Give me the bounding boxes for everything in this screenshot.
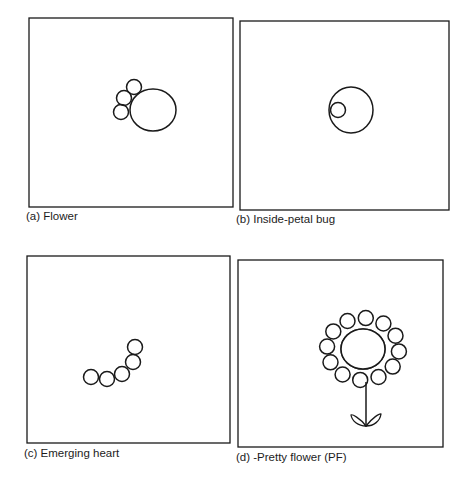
petal-d: [323, 355, 338, 370]
petal-d: [335, 367, 350, 382]
petal-c: [128, 340, 143, 355]
caption-emerging-heart: (c) Emerging heart: [24, 446, 119, 460]
petal-d: [388, 328, 403, 343]
petal-d: [385, 359, 400, 374]
petal-d: [376, 316, 391, 331]
caption-flower: (a) Flower: [26, 209, 78, 223]
petal-c: [84, 370, 99, 385]
petal-c: [100, 372, 115, 387]
flower-center-a: [130, 89, 176, 131]
leaf-left: [351, 415, 366, 426]
petal-d: [391, 344, 406, 359]
petal-d: [326, 324, 341, 339]
panel-frame-b: [240, 21, 449, 210]
petal-d: [371, 370, 386, 385]
flower-center-d-top: [341, 329, 385, 369]
caption-pretty-flower: (d) -Pretty flower (PF): [236, 450, 347, 464]
leaf-right: [366, 414, 381, 426]
figure: (a) Flower (b) Inside-petal bug (c) Emer…: [0, 0, 469, 482]
panel-frame-d: [238, 260, 443, 447]
petal-c: [115, 367, 130, 382]
petal-d: [340, 314, 355, 329]
petal-a: [114, 105, 129, 120]
petal-d: [358, 311, 373, 326]
petal-c: [126, 355, 141, 370]
bug-circle: [331, 103, 346, 118]
panel-frame-a: [29, 18, 233, 207]
caption-inside-petal-bug: (b) Inside-petal bug: [236, 212, 335, 226]
petal-a: [117, 91, 132, 106]
figure-drawing: [0, 0, 469, 482]
petal-d: [320, 339, 335, 354]
flower-center-b: [329, 87, 373, 133]
